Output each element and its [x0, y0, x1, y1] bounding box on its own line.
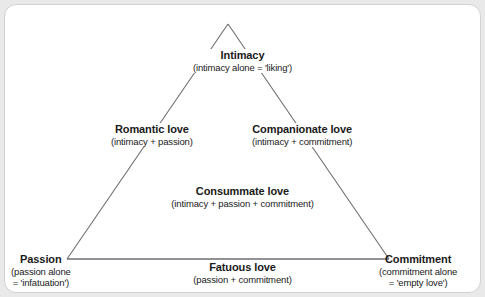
node-commitment-detail: (commitment alone	[379, 266, 457, 277]
node-romantic-love-detail: (intimacy + passion)	[111, 136, 193, 147]
node-passion-detail: (passion alone	[11, 266, 71, 277]
node-commitment: Commitment (commitment alone = 'empty lo…	[377, 253, 459, 288]
node-fatuous-love-label: Fatuous love	[193, 261, 291, 274]
node-consummate-love-label: Consummate love	[171, 185, 313, 198]
node-companionate-love-detail: (intimacy + commitment)	[252, 136, 352, 147]
node-passion: Passion (passion alone = 'infatuation')	[9, 253, 73, 288]
figure-card: Intimacy (intimacy alone = 'liking') Rom…	[4, 4, 481, 293]
node-intimacy-detail: (intimacy alone = 'liking')	[193, 62, 292, 73]
node-companionate-love-label: Companionate love	[252, 123, 352, 136]
node-consummate-love-detail: (intimacy + passion + commitment)	[171, 198, 313, 209]
node-commitment-detail-2: = 'empty love')	[379, 277, 457, 288]
node-romantic-love-label: Romantic love	[111, 123, 193, 136]
node-passion-detail-2: = 'infatuation')	[11, 277, 71, 288]
node-intimacy: Intimacy (intimacy alone = 'liking')	[191, 49, 294, 73]
node-intimacy-label: Intimacy	[193, 49, 292, 62]
node-romantic-love: Romantic love (intimacy + passion)	[109, 123, 195, 147]
node-passion-label: Passion	[11, 253, 71, 266]
node-fatuous-love-detail: (passion + commitment)	[193, 274, 291, 285]
node-companionate-love: Companionate love (intimacy + commitment…	[250, 123, 354, 147]
node-consummate-love: Consummate love (intimacy + passion + co…	[169, 185, 315, 209]
node-commitment-label: Commitment	[379, 253, 457, 266]
node-fatuous-love: Fatuous love (passion + commitment)	[191, 261, 293, 285]
